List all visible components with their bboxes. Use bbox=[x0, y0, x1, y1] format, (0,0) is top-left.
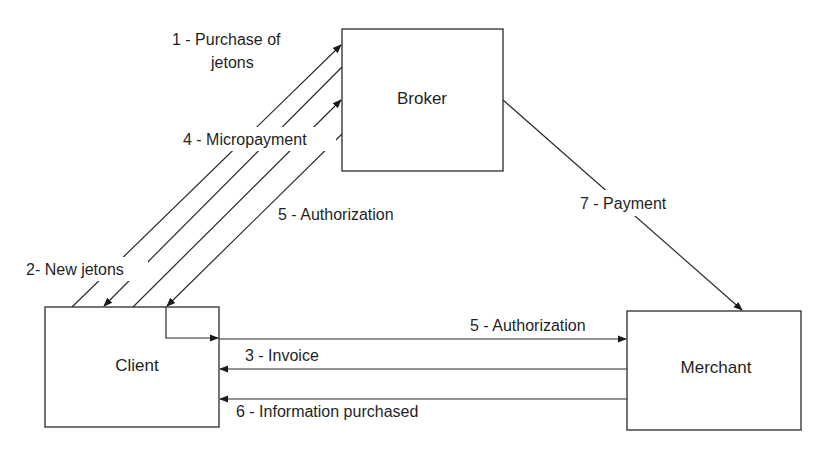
label-purchase-of-jetons: 1 - Purchase of jetons bbox=[172, 31, 281, 71]
client-label: Client bbox=[115, 356, 159, 375]
label-payment-text: 7 - Payment bbox=[580, 195, 667, 212]
merchant-label: Merchant bbox=[681, 358, 752, 377]
label-new-jetons: 2- New jetons bbox=[24, 257, 148, 281]
label-purchase-of-jetons-line1: 1 - Purchase of bbox=[172, 31, 281, 48]
label-authorization-broker-client: 5 - Authorization bbox=[275, 203, 425, 225]
label-micropayment: 4 - Micropayment bbox=[180, 127, 336, 151]
broker-node: Broker bbox=[342, 29, 503, 171]
client-node: Client bbox=[45, 307, 219, 427]
label-micropayment-text: 4 - Micropayment bbox=[183, 131, 307, 148]
label-payment: 7 - Payment bbox=[578, 190, 688, 216]
broker-label: Broker bbox=[397, 89, 447, 108]
label-authorization-client-merchant: 5 - Authorization bbox=[470, 317, 586, 334]
label-new-jetons-text: 2- New jetons bbox=[26, 261, 124, 278]
label-information-purchased: 6 - Information purchased bbox=[236, 403, 418, 420]
label-invoice: 3 - Invoice bbox=[245, 347, 319, 364]
label-authorization-broker-client-text: 5 - Authorization bbox=[278, 206, 394, 223]
label-purchase-of-jetons-line2: jetons bbox=[210, 54, 254, 71]
micropayment-flow-diagram: Broker Client Merchant 1 - Purchase of j… bbox=[0, 0, 827, 458]
merchant-node: Merchant bbox=[627, 311, 801, 430]
